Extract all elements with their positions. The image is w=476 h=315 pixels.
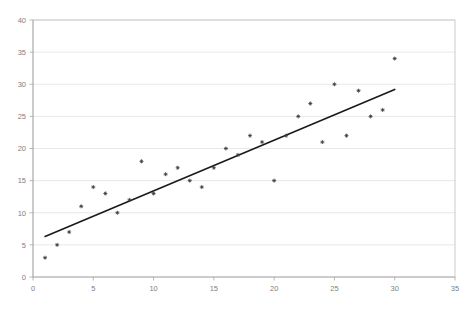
x-axis-tick-label: 0 — [31, 284, 35, 293]
data-point-marker — [91, 185, 95, 189]
data-point-marker — [260, 140, 264, 144]
data-point-marker — [296, 114, 300, 118]
data-point-marker — [320, 140, 324, 144]
y-axis-ticks-group — [30, 20, 34, 277]
data-point-marker — [224, 147, 228, 151]
x-axis-tick-label: 15 — [210, 284, 218, 293]
x-axis-ticks-group — [33, 277, 455, 281]
data-point-marker — [103, 191, 107, 195]
data-point-marker — [188, 179, 192, 183]
scatter-chart-container: 05101520253035 0510152025303540 — [0, 0, 476, 315]
data-point-marker — [67, 230, 71, 234]
x-axis-tick-label: 30 — [391, 284, 399, 293]
data-point-marker — [79, 204, 83, 208]
y-axis-tick-label: 0 — [22, 273, 26, 282]
data-point-marker — [369, 114, 373, 118]
data-point-marker — [140, 159, 144, 163]
data-point-marker — [43, 256, 47, 260]
x-axis-tick-label: 5 — [91, 284, 95, 293]
x-axis-tick-label: 35 — [451, 284, 459, 293]
data-point-marker — [357, 89, 361, 93]
x-axis-labels-group: 05101520253035 — [31, 284, 459, 293]
x-axis-tick-label: 25 — [330, 284, 338, 293]
y-axis-labels-group: 0510152025303540 — [18, 16, 26, 282]
chart-canvas: 05101520253035 0510152025303540 — [0, 0, 476, 315]
trend-line-group — [45, 89, 395, 236]
data-point-marker — [332, 82, 336, 86]
gridlines-group — [33, 20, 455, 245]
x-axis-tick-label: 20 — [270, 284, 278, 293]
y-axis-tick-label: 15 — [18, 176, 26, 185]
data-points-group — [43, 57, 397, 260]
data-point-marker — [272, 179, 276, 183]
y-axis-tick-label: 25 — [18, 112, 26, 121]
x-axis-tick-label: 10 — [149, 284, 157, 293]
y-axis-tick-label: 35 — [18, 48, 26, 57]
y-axis-tick-label: 5 — [22, 241, 26, 250]
data-point-marker — [393, 57, 397, 61]
data-point-marker — [248, 134, 252, 138]
data-point-marker — [55, 243, 59, 247]
linear-trend-line — [45, 89, 395, 236]
data-point-marker — [344, 134, 348, 138]
data-point-marker — [381, 108, 385, 112]
data-point-marker — [308, 102, 312, 106]
y-axis-tick-label: 40 — [18, 16, 26, 25]
y-axis-tick-label: 20 — [18, 144, 26, 153]
data-point-marker — [200, 185, 204, 189]
data-point-marker — [164, 172, 168, 176]
data-point-marker — [176, 166, 180, 170]
data-point-marker — [115, 211, 119, 215]
y-axis-tick-label: 10 — [18, 209, 26, 218]
y-axis-tick-label: 30 — [18, 80, 26, 89]
